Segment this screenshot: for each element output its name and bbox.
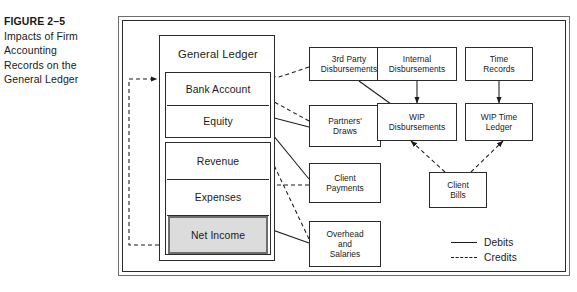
figure-page: FIGURE 2–5 Impacts of Firm Accounting Re… bbox=[0, 0, 577, 292]
figure-title-line-1: Impacts of Firm bbox=[4, 29, 108, 44]
node-client-payments[interactable]: Client Payments bbox=[309, 163, 381, 203]
diagram-frame-outer: Bank Account --> WIP Disbursements --> W… bbox=[118, 16, 570, 276]
legend: Debits Credits bbox=[451, 235, 547, 265]
node-internal-disbursements[interactable]: Internal Disbursements bbox=[377, 47, 457, 81]
legend-label-credits: Credits bbox=[484, 252, 517, 263]
node-label-line: 3rd Party bbox=[319, 54, 380, 64]
node-partners-draws[interactable]: Partners' Draws bbox=[309, 105, 381, 147]
ledger-account-bank-account[interactable]: Bank Account bbox=[167, 74, 269, 106]
figure-title-line-4: General Ledger bbox=[4, 72, 108, 87]
ledger-account-net-income[interactable]: Net Income bbox=[168, 216, 268, 254]
general-ledger-title: General Ledger bbox=[160, 36, 276, 72]
node-time-records[interactable]: Time Records bbox=[465, 47, 533, 81]
node-label-line: Partners' bbox=[326, 116, 364, 126]
figure-caption: FIGURE 2–5 Impacts of Firm Accounting Re… bbox=[4, 14, 108, 87]
legend-label-debits: Debits bbox=[484, 237, 513, 248]
node-label-line: Salaries bbox=[324, 249, 365, 259]
node-client-bills[interactable]: Client Bills bbox=[429, 172, 487, 208]
node-label-line: and bbox=[324, 239, 365, 249]
node-label-line: WIP Time bbox=[479, 112, 520, 122]
ledger-account-expenses[interactable]: Expenses bbox=[167, 180, 269, 216]
figure-number: FIGURE 2–5 bbox=[4, 14, 108, 29]
legend-item-debits: Debits bbox=[451, 235, 547, 250]
node-label-line: Disbursements bbox=[387, 122, 448, 132]
node-label-line: Draws bbox=[326, 126, 364, 136]
legend-item-credits: Credits bbox=[451, 250, 547, 265]
dashed-line-swatch-icon bbox=[451, 257, 477, 259]
node-label-line: Disbursements bbox=[387, 64, 448, 74]
node-label-line: Internal bbox=[387, 54, 448, 64]
node-label-line: WIP bbox=[387, 112, 448, 122]
solid-line-swatch-icon bbox=[451, 242, 477, 244]
ledger-account-revenue[interactable]: Revenue bbox=[167, 144, 269, 180]
figure-title-line-3: Records on the bbox=[4, 58, 108, 73]
figure-title-line-2: Accounting bbox=[4, 43, 108, 58]
ledger-group-income-statement: Revenue Expenses Net Income bbox=[165, 142, 271, 255]
node-wip-disbursements[interactable]: WIP Disbursements bbox=[377, 103, 457, 141]
node-label-line: Disbursements bbox=[319, 64, 380, 74]
general-ledger-container: General Ledger Bank Account Equity Reven… bbox=[159, 35, 275, 261]
node-label-line: Time bbox=[481, 54, 517, 64]
ledger-account-equity[interactable]: Equity bbox=[167, 106, 269, 137]
node-label-line: Client bbox=[445, 180, 471, 190]
node-label-line: Bills bbox=[445, 190, 471, 200]
node-label-line: Ledger bbox=[479, 122, 520, 132]
node-label-line: Payments bbox=[324, 183, 366, 193]
node-wip-time-ledger[interactable]: WIP Time Ledger bbox=[465, 103, 533, 141]
node-overhead-and-salaries[interactable]: Overhead and Salaries bbox=[309, 221, 381, 267]
node-label-line: Records bbox=[481, 64, 517, 74]
node-label-line: Client bbox=[324, 173, 366, 183]
ledger-group-balance-sheet: Bank Account Equity bbox=[165, 72, 271, 138]
node-label-line: Overhead bbox=[324, 229, 365, 239]
